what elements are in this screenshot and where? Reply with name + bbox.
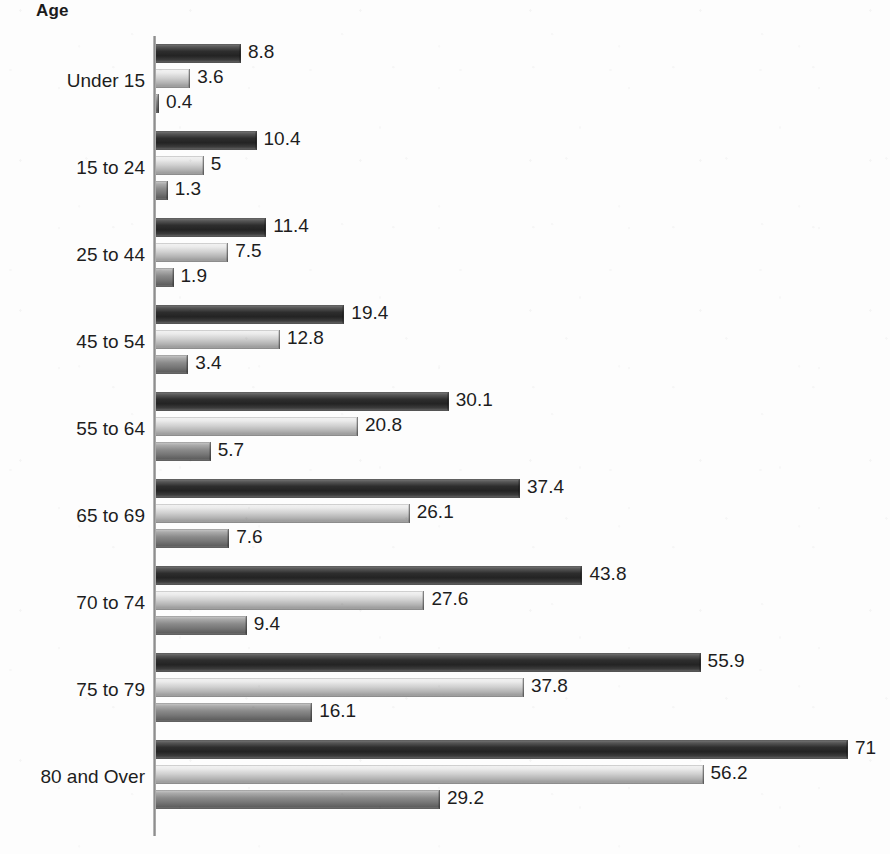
bar-value-label: 9.4: [254, 613, 280, 635]
bar-value-label: 0.4: [166, 91, 192, 113]
bar-value-label: 55.9: [708, 650, 745, 672]
bar-value-label: 26.1: [417, 501, 454, 523]
bar-rect: [154, 790, 440, 809]
bar-value-label: 20.8: [365, 414, 402, 436]
bar-rect: [154, 417, 358, 436]
bar-rect: [154, 703, 312, 722]
bar-value-label: 1.9: [181, 265, 207, 287]
chart-page: Age Under 158.83.60.415 to 2410.451.325 …: [0, 0, 890, 854]
bar-value-label: 10.4: [264, 128, 301, 150]
bar-series-1: 71: [154, 740, 847, 759]
bar-value-label: 3.6: [197, 66, 223, 88]
bar-rect: [154, 442, 211, 461]
bar-group: 15 to 2410.451.3: [0, 131, 890, 206]
bar-value-label: 11.4: [273, 215, 309, 237]
bar-series-3: 9.4: [154, 616, 246, 635]
bar-rect: [154, 181, 168, 200]
bar-group: 80 and Over7156.229.2: [0, 740, 890, 815]
bar-series-1: 19.4: [154, 305, 343, 324]
bar-series-1: 30.1: [154, 392, 448, 411]
category-label: 55 to 64: [0, 418, 145, 440]
bar-value-label: 12.8: [287, 327, 324, 349]
category-label: 45 to 54: [0, 331, 145, 353]
bar-rect: [154, 765, 704, 784]
bar-value-label: 8.8: [248, 41, 274, 63]
bar-group: 75 to 7955.937.816.1: [0, 653, 890, 728]
bar-series-1: 8.8: [154, 44, 240, 63]
bar-value-label: 5: [211, 153, 222, 175]
bar-value-label: 27.6: [431, 588, 468, 610]
bar-series-2: 27.6: [154, 591, 423, 610]
bar-rect: [154, 678, 524, 697]
bar-series-1: 11.4: [154, 218, 265, 237]
bar-rect: [154, 218, 266, 237]
bar-rect: [154, 243, 228, 262]
bar-group: Under 158.83.60.4: [0, 44, 890, 119]
bar-series-2: 3.6: [154, 69, 189, 88]
category-label: 70 to 74: [0, 592, 145, 614]
bar-series-2: 26.1: [154, 504, 409, 523]
bar-series-3: 1.9: [154, 268, 173, 287]
bar-rect: [154, 44, 241, 63]
bar-rect: [154, 616, 247, 635]
bar-value-label: 16.1: [319, 700, 356, 722]
category-label: 75 to 79: [0, 679, 145, 701]
bar-rect: [154, 740, 848, 759]
bar-rect: [154, 305, 344, 324]
bar-value-label: 1.3: [175, 178, 201, 200]
bar-rect: [154, 479, 520, 498]
bar-group: 55 to 6430.120.85.7: [0, 392, 890, 467]
bar-series-3: 7.6: [154, 529, 228, 548]
bar-series-2: 7.5: [154, 243, 227, 262]
category-axis-line: [153, 36, 156, 836]
bar-value-label: 3.4: [195, 352, 221, 374]
category-label: 65 to 69: [0, 505, 145, 527]
bar-value-label: 19.4: [351, 302, 388, 324]
bar-value-label: 29.2: [447, 787, 484, 809]
bar-series-2: 20.8: [154, 417, 357, 436]
bar-rect: [154, 268, 174, 287]
bar-series-2: 5: [154, 156, 203, 175]
bar-rect: [154, 529, 229, 548]
category-label: 15 to 24: [0, 157, 145, 179]
bar-series-2: 56.2: [154, 765, 703, 784]
bar-series-2: 37.8: [154, 678, 523, 697]
bar-rect: [154, 355, 188, 374]
bar-rect: [154, 330, 280, 349]
bar-series-1: 10.4: [154, 131, 256, 150]
bar-value-label: 30.1: [456, 389, 493, 411]
bar-value-label: 37.4: [527, 476, 564, 498]
bar-group: 25 to 4411.47.51.9: [0, 218, 890, 293]
bar-value-label: 5.7: [218, 439, 244, 461]
bar-series-3: 3.4: [154, 355, 187, 374]
bar-rect: [154, 566, 582, 585]
category-label: Under 15: [0, 70, 145, 92]
bar-series-1: 43.8: [154, 566, 581, 585]
bar-series-3: 5.7: [154, 442, 210, 461]
bar-value-label: 56.2: [711, 762, 748, 784]
bar-rect: [154, 504, 410, 523]
bar-series-3: 29.2: [154, 790, 439, 809]
bar-rect: [154, 653, 701, 672]
bar-series-1: 55.9: [154, 653, 700, 672]
bar-group: 45 to 5419.412.83.4: [0, 305, 890, 380]
chart-title: Age: [36, 1, 69, 21]
bar-group: 65 to 6937.426.17.6: [0, 479, 890, 554]
bar-rect: [154, 392, 449, 411]
bar-group: 70 to 7443.827.69.4: [0, 566, 890, 641]
bar-chart-plot: Under 158.83.60.415 to 2410.451.325 to 4…: [0, 0, 890, 854]
bar-series-3: 16.1: [154, 703, 311, 722]
bar-series-2: 12.8: [154, 330, 279, 349]
bar-value-label: 71: [855, 737, 876, 759]
category-label: 80 and Over: [0, 766, 145, 788]
bar-value-label: 7.6: [236, 526, 262, 548]
bar-rect: [154, 131, 257, 150]
bar-series-1: 37.4: [154, 479, 519, 498]
bar-rect: [154, 69, 190, 88]
bar-value-label: 43.8: [589, 563, 626, 585]
bar-value-label: 7.5: [235, 240, 261, 262]
bar-rect: [154, 156, 204, 175]
category-label: 25 to 44: [0, 244, 145, 266]
bar-rect: [154, 591, 424, 610]
bar-value-label: 37.8: [531, 675, 568, 697]
